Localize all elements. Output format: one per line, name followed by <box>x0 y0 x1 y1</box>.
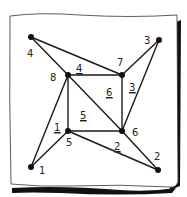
node-3 <box>156 37 162 43</box>
node-2 <box>155 167 161 173</box>
graph-diagram: 436512 12345678 <box>0 0 187 197</box>
edge-label: 6 <box>106 87 112 98</box>
edge-label: 3 <box>129 82 135 93</box>
node-label-7: 7 <box>117 57 123 68</box>
edge-label: 2 <box>114 141 120 152</box>
node-label-2: 2 <box>154 151 160 162</box>
node-label-5: 5 <box>66 137 72 148</box>
paper-outline <box>10 14 178 187</box>
node-1 <box>28 164 34 170</box>
node-label-4: 4 <box>27 48 33 59</box>
edge-label: 4 <box>76 63 82 74</box>
edge-label: 5 <box>80 110 86 121</box>
node-label-3: 3 <box>144 35 150 46</box>
node-label-1: 1 <box>39 165 45 176</box>
node-label-8: 8 <box>50 72 56 83</box>
paper-shadow-bottom <box>12 187 176 195</box>
node-label-6: 6 <box>132 127 138 138</box>
edge-label: 1 <box>54 122 60 133</box>
node-8 <box>65 72 71 78</box>
node-7 <box>119 72 125 78</box>
node-5 <box>65 128 71 134</box>
node-6 <box>119 128 125 134</box>
node-4 <box>28 34 34 40</box>
